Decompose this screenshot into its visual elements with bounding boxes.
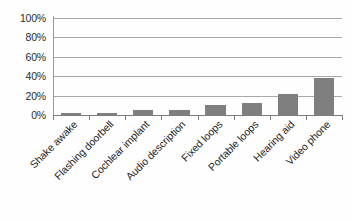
bar[interactable] — [242, 103, 262, 115]
bar-slot — [306, 18, 342, 115]
y-tick-label: 100% — [20, 12, 46, 24]
bar-slot — [125, 18, 161, 115]
bar-chart: 0%20%40%60%80%100% Shake awakeFlashing d… — [0, 0, 353, 220]
bar-slot — [89, 18, 125, 115]
x-axis-labels: Shake awakeFlashing doorbellCochlear imp… — [0, 118, 353, 220]
y-tick-label: 20% — [26, 90, 46, 102]
bar-slot — [234, 18, 270, 115]
bar[interactable] — [278, 94, 298, 115]
bar[interactable] — [314, 78, 334, 115]
bar-slot — [161, 18, 197, 115]
bar-slot — [270, 18, 306, 115]
bar-slot — [198, 18, 234, 115]
y-tick-label: 40% — [26, 70, 46, 82]
y-tick-label: 80% — [26, 31, 46, 43]
y-tick-label: 60% — [26, 51, 46, 63]
bar[interactable] — [205, 105, 225, 115]
bar-slot — [53, 18, 89, 115]
bars-layer — [53, 18, 342, 115]
